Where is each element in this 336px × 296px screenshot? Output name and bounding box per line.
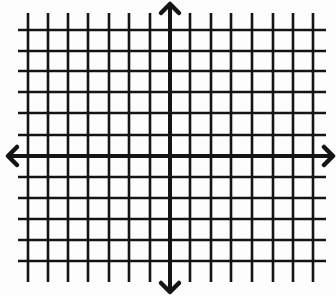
coordinate-plane bbox=[0, 0, 336, 296]
axes bbox=[8, 4, 333, 292]
